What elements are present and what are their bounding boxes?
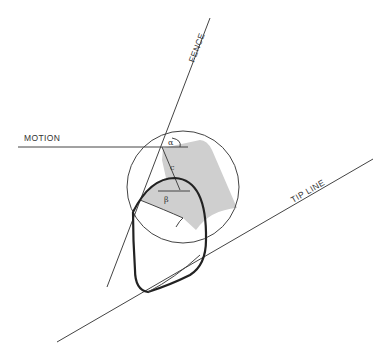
tip-line-label: TIP LINE bbox=[289, 177, 327, 204]
motion-label: MOTION bbox=[24, 133, 60, 143]
beta-label: β bbox=[164, 195, 169, 204]
fence-label: FENCE bbox=[187, 31, 207, 63]
fence-tip-diagram: FENCE MOTION TIP LINE α c β bbox=[0, 0, 389, 356]
c-label: c bbox=[170, 163, 175, 172]
alpha-label: α bbox=[168, 138, 174, 147]
